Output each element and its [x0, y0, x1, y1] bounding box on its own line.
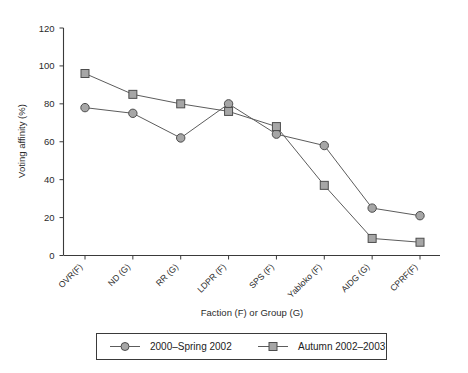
y-tick-label: 40 — [44, 174, 55, 185]
data-point-square-marker — [177, 100, 185, 108]
data-point-circle-marker — [177, 134, 185, 142]
legend-label-0: 2000–Spring 2002 — [150, 341, 232, 352]
data-point-square-marker — [320, 181, 328, 189]
legend-circle-marker-icon — [121, 343, 129, 351]
data-point-square-marker — [81, 70, 89, 78]
y-tick-label: 0 — [49, 250, 54, 261]
data-point-square-marker — [368, 234, 376, 242]
y-axis-title: Voting affinity (%) — [16, 104, 27, 178]
legend-label-1: Autumn 2002–2003 — [298, 341, 386, 352]
data-point-circle-marker — [81, 103, 89, 111]
legend-square-marker-icon — [269, 343, 277, 351]
y-tick-label: 120 — [39, 23, 55, 34]
data-point-square-marker — [225, 107, 233, 115]
data-point-circle-marker — [320, 141, 328, 149]
legend-item-1[interactable]: Autumn 2002–2003 — [258, 341, 386, 352]
data-point-circle-marker — [416, 211, 424, 219]
data-point-circle-marker — [224, 100, 232, 108]
data-point-square-marker — [129, 90, 137, 98]
y-tick-label: 60 — [44, 136, 55, 147]
data-point-circle-marker — [272, 130, 280, 138]
y-tick-label: 80 — [44, 98, 55, 109]
voting-affinity-line-chart: 020406080100120 OVR(F)ND (G)RR (G)LDPR (… — [0, 0, 468, 373]
data-point-circle-marker — [129, 109, 137, 117]
x-axis-title: Faction (F) or Group (G) — [201, 307, 303, 318]
y-tick-label: 20 — [44, 212, 55, 223]
data-point-square-marker — [416, 238, 424, 246]
data-point-square-marker — [272, 123, 280, 131]
y-tick-label: 100 — [39, 60, 55, 71]
data-point-circle-marker — [368, 204, 376, 212]
chart-container: 020406080100120 OVR(F)ND (G)RR (G)LDPR (… — [0, 0, 468, 373]
